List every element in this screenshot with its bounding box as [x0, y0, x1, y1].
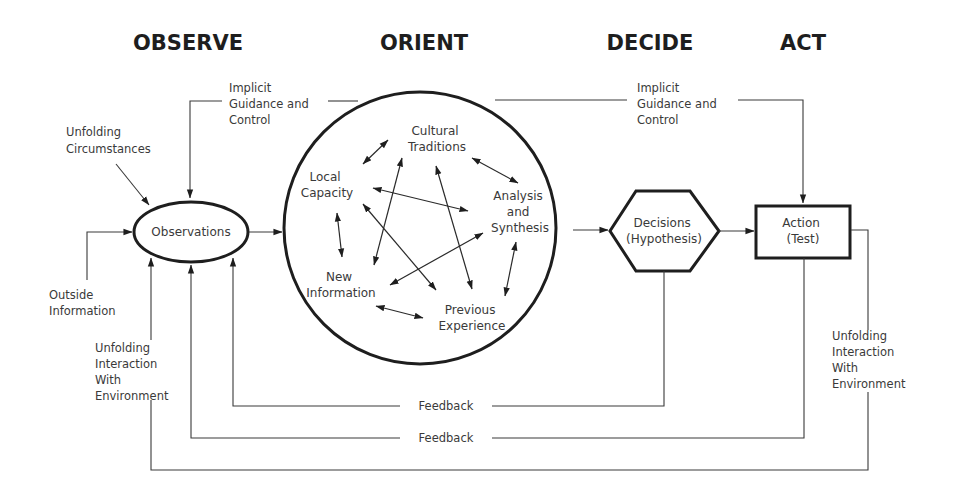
- unfolding-circumstances-arrow: [116, 164, 149, 205]
- implicit-guidance-right-label: Implicit Guidance and Control: [637, 81, 720, 127]
- unfolding-interaction-right-label: Unfolding Interaction With Environment: [832, 329, 906, 391]
- phase-title-decide: DECIDE: [607, 31, 694, 55]
- feedback-label-2: Feedback: [419, 431, 474, 445]
- unfolding-circumstances-label: Unfolding Circumstances: [66, 125, 151, 156]
- phase-title-observe: OBSERVE: [133, 31, 243, 55]
- action-node: Action (Test): [756, 206, 850, 258]
- implicit-guidance-left-label: Implicit Guidance and Control: [229, 81, 312, 127]
- decisions-node: Decisions (Hypothesis): [610, 191, 719, 271]
- unfolding-interaction-left-label: Unfolding Interaction With Environment: [95, 341, 169, 403]
- observations-label: Observations: [151, 225, 230, 239]
- phase-title-orient: ORIENT: [380, 31, 469, 55]
- feedback-label-1: Feedback: [419, 399, 474, 413]
- observations-node: Observations: [134, 202, 248, 262]
- outside-information-label: Outside Information: [49, 288, 116, 318]
- ooda-loop-diagram: OBSERVE ORIENT DECIDE ACT Implicit Guida…: [0, 0, 965, 497]
- outside-information-arrow: [87, 232, 132, 280]
- phase-title-act: ACT: [780, 31, 827, 55]
